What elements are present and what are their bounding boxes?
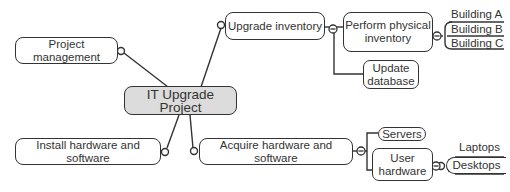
topic-acquire-hardware-software[interactable]: Acquire hardware and software bbox=[199, 138, 353, 165]
topic-label: Install hardware and software bbox=[16, 139, 160, 165]
central-topic[interactable]: IT Upgrade Project bbox=[124, 86, 237, 115]
topic-building-c[interactable]: Building C bbox=[451, 37, 503, 49]
collapse-minus-upgrade-inventory[interactable] bbox=[329, 25, 337, 33]
topic-label: Building B bbox=[451, 23, 503, 35]
topic-laptops[interactable]: Laptops bbox=[459, 141, 500, 153]
topic-update-database[interactable]: Update database bbox=[363, 60, 419, 89]
collapse-minus-acquire[interactable] bbox=[357, 147, 365, 155]
topic-label: Acquire hardware and software bbox=[200, 139, 352, 165]
topic-install-hardware-software[interactable]: Install hardware and software bbox=[15, 138, 161, 165]
collapse-minus-user-hardware[interactable] bbox=[432, 162, 440, 170]
topic-label: Update database bbox=[367, 62, 414, 88]
connector-acquire bbox=[190, 115, 193, 148]
connector-project-management bbox=[124, 53, 168, 87]
topic-label: Desktops bbox=[453, 159, 501, 172]
topic-building-b[interactable]: Building B bbox=[451, 23, 503, 35]
topic-desktops[interactable]: Desktops bbox=[446, 157, 506, 174]
topic-project-management[interactable]: Project management bbox=[15, 37, 118, 64]
topic-building-a[interactable]: Building A bbox=[451, 8, 502, 20]
topic-label: Building C bbox=[451, 37, 503, 49]
topic-servers[interactable]: Servers bbox=[378, 127, 426, 141]
topic-user-hardware[interactable]: User hardware bbox=[372, 148, 433, 181]
connector-upgrade-inventory bbox=[201, 28, 221, 87]
topic-label: Building A bbox=[451, 8, 502, 20]
topic-label: Perform physical inventory bbox=[345, 19, 431, 45]
collapse-toggle-install[interactable] bbox=[162, 149, 169, 156]
topic-upgrade-inventory[interactable]: Upgrade inventory bbox=[225, 12, 325, 40]
topic-label: User hardware bbox=[379, 152, 427, 178]
central-topic-label: IT Upgrade Project bbox=[125, 88, 236, 114]
collapse-toggle-project-management[interactable] bbox=[118, 48, 125, 55]
topic-label: Upgrade inventory bbox=[228, 20, 322, 33]
connector-install bbox=[167, 115, 179, 148]
collapse-toggle-upgrade-inventory[interactable] bbox=[218, 22, 225, 29]
topic-label: Project management bbox=[16, 38, 117, 64]
collapse-minus-perform-physical[interactable] bbox=[433, 32, 441, 40]
topic-perform-physical-inventory[interactable]: Perform physical inventory bbox=[343, 12, 433, 52]
topic-label: Servers bbox=[382, 128, 422, 141]
topic-label: Laptops bbox=[459, 141, 500, 153]
collapse-toggle-acquire[interactable] bbox=[191, 148, 198, 155]
